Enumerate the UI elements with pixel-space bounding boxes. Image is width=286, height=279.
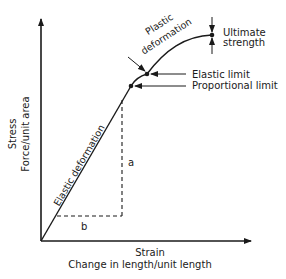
plastic-pointer-arrow (128, 57, 145, 71)
x-axis-label-strain: Strain (135, 247, 165, 258)
slope-run-label: b (81, 221, 87, 232)
elastic-limit-label: Elastic limit (192, 69, 250, 80)
ultimate-strength-label-line2: strength (223, 37, 265, 48)
slope-rise-label: a (128, 157, 134, 168)
stress-strain-diagram: Stress Force/unit area Strain Change in … (0, 0, 286, 279)
proportional-limit-label: Proportional limit (192, 80, 278, 91)
y-axis-label-units: Force/unit area (20, 96, 31, 171)
proportional-limit-point (129, 84, 134, 89)
ultimate-strength-point (210, 33, 215, 38)
y-axis-label-stress: Stress (7, 119, 18, 150)
x-axis-label-units: Change in length/unit length (68, 259, 211, 270)
elastic-limit-point (145, 72, 150, 77)
elastic-deformation-label: Elastic deformation (51, 123, 107, 208)
stress-strain-curve (41, 35, 212, 241)
